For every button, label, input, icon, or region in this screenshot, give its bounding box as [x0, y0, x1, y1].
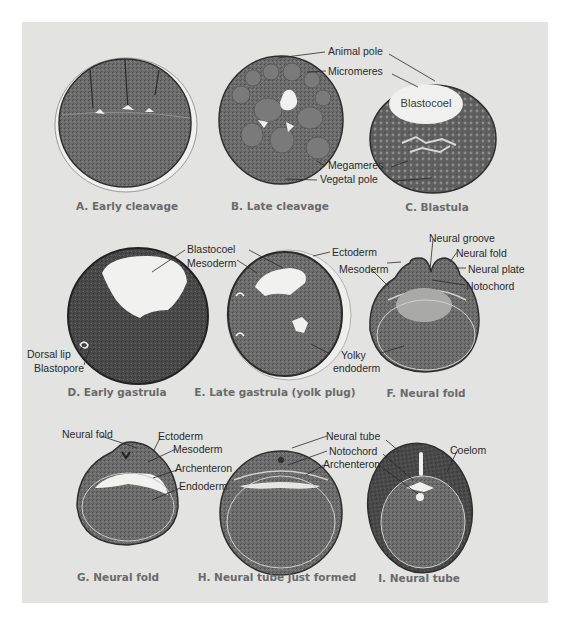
label-b-animal-pole: Animal pole — [328, 46, 383, 57]
embryo-g-neural-fold — [77, 442, 178, 545]
label-i-coelom: Coelom — [450, 445, 486, 456]
label-g-neural-fold: Neural fold — [62, 429, 113, 440]
label-g-mesoderm: Mesoderm — [173, 444, 223, 455]
label-f-neural-fold: Neural fold — [456, 248, 507, 259]
caption-d: D. Early gastrula — [67, 387, 166, 398]
label-d-blastocoel: Blastocoel — [187, 244, 235, 255]
label-e-mesoderm: Mesoderm — [187, 258, 237, 269]
label-f-mesoderm: Mesoderm — [339, 264, 389, 275]
caption-c: C. Blastula — [405, 202, 468, 213]
label-d-blastopore: Blastopore — [34, 363, 84, 374]
embryo-e-late-gastrula — [227, 250, 351, 380]
caption-a: A. Early cleavage — [76, 201, 178, 212]
embryo-development-figure — [0, 0, 570, 623]
caption-g: G. Neural fold — [77, 572, 159, 583]
label-f-neural-plate: Neural plate — [468, 264, 525, 275]
label-d-dorsal-lip: Dorsal lip — [27, 349, 71, 360]
label-e-yolky: Yolky — [341, 350, 366, 361]
embryo-a-early-cleavage — [55, 58, 197, 192]
label-g-endoderm: Endoderm — [179, 481, 227, 492]
label-b-micromeres: Micromeres — [328, 66, 383, 77]
label-e-ectoderm: Ectoderm — [332, 247, 377, 258]
label-e-endoderm: endoderm — [333, 363, 380, 374]
label-h-archenteron: Archenteron — [323, 459, 380, 470]
caption-f: F. Neural fold — [386, 388, 465, 399]
caption-h: H. Neural tube just formed — [198, 572, 357, 583]
label-c-blastocoel: Blastocoel — [401, 98, 452, 109]
embryo-b-late-cleavage — [219, 56, 343, 184]
caption-b: B. Late cleavage — [231, 201, 329, 212]
embryo-f-neural-fold — [370, 258, 479, 372]
label-b-vegetal-pole: Vegetal pole — [320, 174, 378, 185]
caption-i: I. Neural tube — [378, 573, 460, 584]
label-g-archenteron: Archenteron — [175, 463, 232, 474]
label-h-neural-tube: Neural tube — [326, 431, 380, 442]
caption-e: E. Late gastrula (yolk plug) — [194, 387, 355, 398]
label-f-notochord: Notochord — [466, 281, 514, 292]
label-h-notochord: Notochord — [329, 446, 377, 457]
label-b-megameres: Megameres — [328, 160, 383, 171]
label-f-neural-groove: Neural groove — [429, 233, 495, 244]
label-g-ectoderm: Ectoderm — [158, 431, 203, 442]
